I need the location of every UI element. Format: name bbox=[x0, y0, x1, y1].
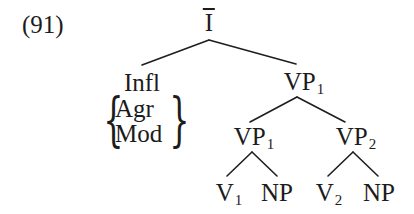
edge-ibar-vp1 bbox=[209, 40, 296, 64]
node-label: I bbox=[205, 9, 213, 36]
node-infl: Infl bbox=[124, 70, 160, 95]
node-i-bar: I bbox=[205, 10, 213, 35]
feature-mod: Mod bbox=[115, 121, 162, 146]
node-label: V bbox=[316, 179, 334, 206]
node-subscript: 1 bbox=[267, 136, 275, 152]
edge-ibar-infl bbox=[142, 40, 209, 65]
edge-vp1-v1 bbox=[227, 152, 252, 176]
node-label: VP bbox=[284, 68, 316, 95]
leaf-np-1: NP bbox=[261, 180, 293, 205]
node-label: NP bbox=[363, 179, 395, 206]
leaf-v1: V1 bbox=[216, 180, 243, 205]
leaf-v2: V2 bbox=[316, 180, 343, 205]
edge-vp1-vp1 bbox=[250, 97, 297, 122]
edge-vp2-v2 bbox=[328, 152, 353, 176]
edge-vp2-np bbox=[353, 152, 378, 176]
node-label: VP bbox=[336, 123, 368, 150]
syntax-tree-diagram: (91) I Infl { Agr Mod } VP1 VP1 VP2 V1 N… bbox=[0, 0, 414, 214]
right-brace: } bbox=[169, 91, 189, 149]
infl-feature-set: { Agr Mod } bbox=[101, 95, 181, 155]
node-label: Infl bbox=[124, 69, 160, 96]
node-label: VP bbox=[234, 123, 266, 150]
node-vp1-lower: VP1 bbox=[234, 124, 274, 149]
edge-vp1-vp2 bbox=[297, 97, 345, 122]
node-subscript: 2 bbox=[335, 192, 343, 208]
leaf-np-2: NP bbox=[363, 180, 395, 205]
node-subscript: 1 bbox=[235, 192, 243, 208]
node-subscript: 2 bbox=[369, 136, 377, 152]
node-vp2: VP2 bbox=[336, 124, 376, 149]
node-label: NP bbox=[261, 179, 293, 206]
node-label: V bbox=[216, 179, 234, 206]
bar-diacritic bbox=[203, 8, 215, 10]
example-number: (91) bbox=[22, 12, 64, 37]
node-vp1-top: VP1 bbox=[284, 69, 324, 94]
edge-vp1-np bbox=[252, 152, 277, 176]
feature-agr: Agr bbox=[115, 96, 154, 121]
node-subscript: 1 bbox=[317, 81, 325, 97]
